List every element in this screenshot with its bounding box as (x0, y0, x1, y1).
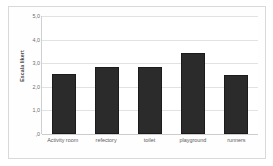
bar[interactable] (95, 67, 119, 134)
y-axis-tick-labels: 5,04,03,02,01,0,0 (22, 16, 40, 134)
bar-slot (42, 16, 85, 134)
bar-slot (85, 16, 128, 134)
x-tick-label: refectory (84, 137, 127, 143)
x-tick-label: toilet (128, 137, 171, 143)
x-axis-tick-labels: Activity roomrefectorytoiletplaygroundru… (41, 137, 258, 143)
bar[interactable] (138, 67, 162, 134)
y-tick-label: 5,0 (33, 13, 41, 19)
bar-chart-figure: Escala likert 5,04,03,02,01,0,0 Activity… (0, 0, 273, 166)
y-tick-label: 2,0 (33, 84, 41, 90)
bars-layer (42, 16, 258, 134)
y-tick-label: 3,0 (33, 60, 41, 66)
bar[interactable] (181, 53, 205, 134)
bar[interactable] (52, 74, 76, 134)
x-tick-label: runners (215, 137, 258, 143)
bar-slot (215, 16, 258, 134)
y-tick-label: 4,0 (33, 37, 41, 43)
bar[interactable] (224, 75, 248, 134)
x-tick-label: Activity room (41, 137, 84, 143)
x-tick-label: playground (171, 137, 214, 143)
axis-baseline (42, 134, 258, 135)
plot-area (41, 16, 258, 134)
bar-slot (128, 16, 171, 134)
y-tick-label: 1,0 (33, 107, 41, 113)
y-tick-label: ,0 (36, 131, 41, 137)
bar-slot (172, 16, 215, 134)
